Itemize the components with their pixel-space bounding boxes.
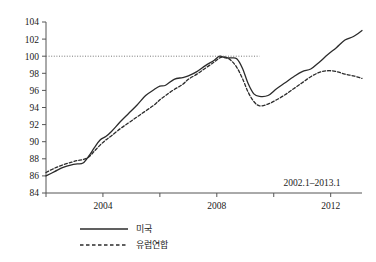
line-chart: 8486889092949698100102104 200420082012 2… xyxy=(0,0,376,262)
y-tick-label-84: 84 xyxy=(30,188,40,198)
y-tick-label-90: 90 xyxy=(30,137,40,147)
period-annotation: 2002.1–2013.1 xyxy=(284,178,341,188)
series-line-usa xyxy=(46,31,362,176)
y-tick-label-94: 94 xyxy=(30,103,40,113)
y-tick-label-102: 102 xyxy=(25,35,40,45)
chart-container: 8486889092949698100102104 200420082012 2… xyxy=(0,0,376,262)
y-tick-label-92: 92 xyxy=(30,120,40,130)
legend: 미국 유럽연합 xyxy=(80,224,168,250)
x-tick-label-2004: 2004 xyxy=(93,201,112,211)
x-tick-label-2008: 2008 xyxy=(207,201,226,211)
x-tick-marks xyxy=(46,193,331,197)
x-tick-label-2012: 2012 xyxy=(321,201,340,211)
x-axis-group: 200420082012 xyxy=(46,193,362,211)
y-tick-labels: 8486889092949698100102104 xyxy=(25,17,40,198)
x-tick-labels: 200420082012 xyxy=(93,201,340,211)
y-tick-label-86: 86 xyxy=(30,171,40,181)
y-tick-label-96: 96 xyxy=(30,86,40,96)
y-axis-group: 8486889092949698100102104 xyxy=(25,17,46,198)
series-line-eu xyxy=(46,57,362,173)
y-tick-label-88: 88 xyxy=(30,154,40,164)
y-tick-label-100: 100 xyxy=(25,52,40,62)
y-tick-label-98: 98 xyxy=(30,69,40,79)
y-tick-label-104: 104 xyxy=(25,17,40,27)
y-tick-marks xyxy=(42,22,46,193)
legend-label-usa: 미국 xyxy=(136,224,152,234)
legend-label-eu: 유럽연합 xyxy=(136,240,168,250)
